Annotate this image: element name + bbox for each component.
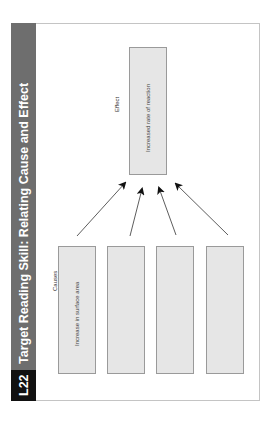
- arrow-2-icon: [130, 189, 142, 236]
- arrow-3-icon: [159, 188, 176, 235]
- cause-effect-arrows: [0, 0, 274, 425]
- arrow-4-icon: [176, 184, 228, 235]
- arrow-1-icon: [77, 183, 125, 236]
